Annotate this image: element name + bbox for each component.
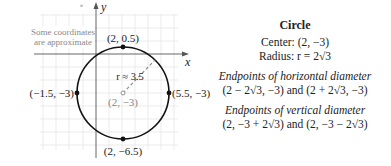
point-top xyxy=(121,45,126,50)
horizontal-diameter-heading: Endpoints of horizontal diameter xyxy=(205,69,385,83)
point-right xyxy=(167,91,172,96)
vertical-diameter-heading: Endpoints of vertical diameter xyxy=(205,103,385,117)
y-axis-arrow-icon xyxy=(94,2,99,9)
axis-mark: » xyxy=(80,2,83,8)
horizontal-diameter-values: (2 − 2√3, −3) and (2 + 2√3, −3) xyxy=(205,83,385,97)
label-bottom: (2, −6.5) xyxy=(104,145,143,158)
center-text: Center: (2, −3) xyxy=(205,35,385,49)
panel-title: Circle xyxy=(205,18,385,32)
label-left: (−1.5, −3) xyxy=(30,87,75,100)
point-center xyxy=(121,91,125,95)
note-line-1: Some coordinates xyxy=(31,27,96,37)
y-axis-label: y xyxy=(100,0,107,14)
label-center: (2, −3) xyxy=(108,96,138,109)
label-radius: r ≈ 3.5 xyxy=(116,71,144,82)
vertical-diameter-values: (2, −3 + 2√3) and (2, −3 − 2√3) xyxy=(205,117,385,131)
x-axis-label: x xyxy=(184,55,191,69)
radius-text: Radius: r = 2√3 xyxy=(205,49,385,63)
point-left xyxy=(75,91,80,96)
label-top: (2, 0.5) xyxy=(107,32,139,45)
info-panel: Circle Center: (2, −3) Radius: r = 2√3 E… xyxy=(205,18,385,131)
point-bottom xyxy=(121,137,126,142)
note-line-2: are approximate xyxy=(34,37,92,47)
